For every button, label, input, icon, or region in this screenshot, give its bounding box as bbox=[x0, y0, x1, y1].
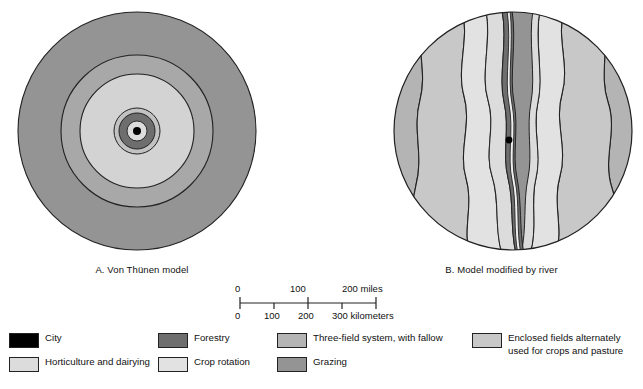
band-enclosed-fields-right bbox=[556, 10, 615, 254]
city-center-marker bbox=[133, 127, 141, 135]
legend-label-horticulture-and-dairying: Horticulture and dairying bbox=[45, 356, 150, 369]
band-enclosed-fields-left bbox=[412, 10, 470, 254]
legend-item-horticulture-and-dairying: Horticulture and dairying bbox=[9, 356, 150, 372]
legend-item-city: City bbox=[9, 332, 62, 348]
legend-label-enclosed-fields: Enclosed fields alternately used for cro… bbox=[508, 332, 623, 357]
legend-swatch-crop-rotation bbox=[158, 357, 188, 372]
legend-label-city: City bbox=[45, 332, 62, 345]
caption-panel-a: A. Von Thünen model bbox=[0, 264, 284, 275]
scale-km-tick-100: 100 bbox=[264, 310, 280, 321]
legend-item-crop-rotation: Crop rotation bbox=[158, 356, 250, 372]
scale-miles-tick-0: 0 bbox=[235, 283, 240, 294]
legend-label-grazing: Grazing bbox=[313, 356, 347, 369]
scale-miles-unit: 200 miles bbox=[342, 283, 383, 294]
caption-panel-b: B. Model modified by river bbox=[360, 264, 643, 275]
legend-label-crop-rotation: Crop rotation bbox=[194, 356, 250, 369]
legend: City Horticulture and dairying Forestry … bbox=[0, 330, 643, 382]
scale-bar: 0 100 200 miles 0 100 200 300 kilometers bbox=[238, 283, 398, 323]
legend-label-three-field-system: Three-field system, with fallow bbox=[313, 332, 443, 345]
scale-km-tick-200: 200 bbox=[298, 310, 314, 321]
maps-svg bbox=[0, 0, 643, 262]
legend-swatch-forestry bbox=[158, 333, 188, 348]
scale-miles-tick-100: 100 bbox=[290, 283, 306, 294]
legend-item-forestry: Forestry bbox=[158, 332, 230, 348]
legend-swatch-three-field-system bbox=[277, 333, 307, 348]
city-marker-panel-b bbox=[506, 137, 513, 144]
legend-swatch-horticulture-and-dairying bbox=[9, 357, 39, 372]
legend-item-three-field-system: Three-field system, with fallow bbox=[277, 332, 443, 348]
legend-swatch-enclosed-fields bbox=[472, 333, 502, 348]
scale-km-unit: 300 kilometers bbox=[332, 310, 394, 321]
scale-km-tick-0: 0 bbox=[235, 310, 240, 321]
legend-item-enclosed-fields: Enclosed fields alternately used for cro… bbox=[472, 332, 623, 357]
legend-label-forestry: Forestry bbox=[194, 332, 230, 345]
figure-root: A. Von Thünen model B. Model modified by… bbox=[0, 0, 643, 389]
scale-bar-ruler bbox=[238, 296, 398, 310]
panel-a-von-thunen-model bbox=[18, 12, 256, 250]
panel-b-model-modified-by-river bbox=[392, 10, 636, 254]
legend-swatch-city bbox=[9, 333, 39, 348]
legend-item-grazing: Grazing bbox=[277, 356, 347, 372]
legend-swatch-grazing bbox=[277, 357, 307, 372]
